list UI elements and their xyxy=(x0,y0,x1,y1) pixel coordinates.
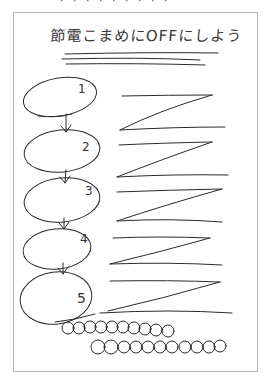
scribble-row-2 xyxy=(91,340,226,354)
step-oval-3 xyxy=(22,174,102,226)
step-number-1: 1 xyxy=(78,82,86,96)
title-underline-1 xyxy=(65,53,218,54)
zigzag-lines-5 xyxy=(100,281,232,313)
title-underline-2 xyxy=(62,58,200,60)
step-number-2: 2 xyxy=(82,140,90,154)
step-oval-2 xyxy=(22,126,102,176)
zigzag-lines-4 xyxy=(110,237,222,265)
zigzag-lines-3 xyxy=(117,189,222,222)
step-oval-1 xyxy=(20,72,99,122)
arrow-down-icon-3 xyxy=(59,218,69,229)
step-number-5: 5 xyxy=(77,290,86,306)
step-number-4: 4 xyxy=(80,232,88,246)
title-underline-3 xyxy=(66,64,205,65)
step-number-3: 3 xyxy=(85,184,93,198)
zigzag-lines-1 xyxy=(120,95,225,130)
sketch-drawing xyxy=(0,0,272,380)
zigzag-lines-2 xyxy=(117,142,228,177)
scribble-row-1 xyxy=(62,321,174,337)
